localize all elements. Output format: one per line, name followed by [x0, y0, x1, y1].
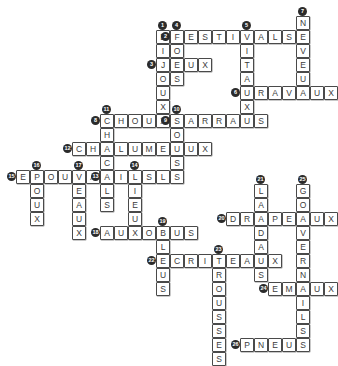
crossword-cell[interactable]: E [282, 212, 296, 226]
crossword-cell[interactable]: A [226, 114, 240, 128]
clue-number-badge[interactable]: 4 [172, 21, 181, 30]
crossword-cell[interactable]: U [170, 226, 184, 240]
crossword-cell[interactable]: D [254, 226, 268, 240]
crossword-cell[interactable]: T [212, 254, 226, 268]
crossword-cell[interactable]: A [240, 72, 254, 86]
crossword-cell[interactable]: U [156, 268, 170, 282]
crossword-cell[interactable]: O [142, 226, 156, 240]
crossword-cell[interactable]: A [184, 114, 198, 128]
crossword-cell[interactable]: H [86, 142, 100, 156]
crossword-cell[interactable]: O [44, 170, 58, 184]
crossword-cell[interactable]: U [184, 58, 198, 72]
crossword-cell[interactable]: U [142, 114, 156, 128]
clue-number-badge[interactable]: 8 [91, 116, 100, 125]
crossword-cell[interactable]: E [128, 198, 142, 212]
crossword-cell[interactable]: S [212, 310, 226, 324]
crossword-cell[interactable]: U [240, 86, 254, 100]
crossword-cell[interactable]: S [184, 226, 198, 240]
crossword-cell[interactable]: T [240, 58, 254, 72]
clue-number-badge[interactable]: 23 [214, 245, 223, 254]
crossword-cell[interactable]: R [240, 212, 254, 226]
crossword-cell[interactable]: V [296, 226, 310, 240]
crossword-cell[interactable]: X [198, 142, 212, 156]
crossword-cell[interactable]: V [296, 44, 310, 58]
crossword-cell[interactable]: A [296, 86, 310, 100]
clue-number-badge[interactable]: 18 [91, 228, 100, 237]
clue-number-badge[interactable]: 6 [231, 88, 240, 97]
clue-number-badge[interactable]: 17 [74, 161, 83, 170]
crossword-cell[interactable]: L [128, 170, 142, 184]
crossword-cell[interactable]: U [310, 282, 324, 296]
crossword-cell[interactable]: E [16, 170, 30, 184]
crossword-cell[interactable]: S [296, 338, 310, 352]
crossword-cell[interactable]: I [296, 296, 310, 310]
crossword-cell[interactable]: H [100, 128, 114, 142]
crossword-cell[interactable]: A [100, 170, 114, 184]
crossword-cell[interactable]: A [254, 30, 268, 44]
crossword-cell[interactable]: U [128, 142, 142, 156]
crossword-cell[interactable]: L [268, 30, 282, 44]
crossword-cell[interactable]: E [184, 30, 198, 44]
crossword-cell[interactable]: V [240, 30, 254, 44]
crossword-cell[interactable]: X [198, 58, 212, 72]
crossword-cell[interactable]: S [254, 268, 268, 282]
crossword-cell[interactable]: O [170, 128, 184, 142]
clue-number-badge[interactable]: 20 [217, 214, 226, 223]
crossword-cell[interactable]: B [156, 226, 170, 240]
clue-number-badge[interactable]: 21 [256, 175, 265, 184]
crossword-cell[interactable]: U [156, 86, 170, 100]
crossword-cell[interactable]: H [114, 114, 128, 128]
clue-number-badge[interactable]: 19 [158, 217, 167, 226]
crossword-cell[interactable]: S [170, 72, 184, 86]
crossword-cell[interactable]: P [30, 170, 44, 184]
crossword-cell[interactable]: S [142, 170, 156, 184]
clue-number-badge[interactable]: 25 [298, 175, 307, 184]
crossword-cell[interactable]: S [254, 114, 268, 128]
crossword-cell[interactable]: U [72, 212, 86, 226]
crossword-cell[interactable]: U [58, 170, 72, 184]
crossword-cell[interactable]: E [296, 240, 310, 254]
crossword-cell[interactable]: U [212, 296, 226, 310]
crossword-cell[interactable]: X [30, 212, 44, 226]
crossword-cell[interactable]: O [212, 282, 226, 296]
crossword-cell[interactable]: P [240, 338, 254, 352]
crossword-cell[interactable]: C [100, 156, 114, 170]
clue-number-badge[interactable]: 15 [7, 172, 16, 181]
crossword-cell[interactable]: F [170, 30, 184, 44]
crossword-cell[interactable]: L [114, 142, 128, 156]
clue-number-badge[interactable]: 24 [259, 284, 268, 293]
clue-number-badge[interactable]: 26 [231, 340, 240, 349]
crossword-cell[interactable]: R [254, 86, 268, 100]
crossword-cell[interactable]: M [282, 282, 296, 296]
crossword-cell[interactable]: E [268, 282, 282, 296]
crossword-cell[interactable]: E [72, 184, 86, 198]
crossword-cell[interactable]: U [310, 212, 324, 226]
crossword-cell[interactable]: U [114, 226, 128, 240]
crossword-cell[interactable]: L [296, 310, 310, 324]
crossword-cell[interactable]: E [212, 338, 226, 352]
crossword-cell[interactable]: V [72, 170, 86, 184]
crossword-cell[interactable]: N [254, 338, 268, 352]
crossword-cell[interactable]: U [310, 86, 324, 100]
crossword-cell[interactable]: I [114, 170, 128, 184]
clue-number-badge[interactable]: 11 [102, 105, 111, 114]
crossword-cell[interactable]: N [296, 16, 310, 30]
clue-number-badge[interactable]: 16 [32, 161, 41, 170]
crossword-cell[interactable]: L [156, 170, 170, 184]
crossword-cell[interactable]: X [72, 226, 86, 240]
crossword-cell[interactable]: S [212, 324, 226, 338]
crossword-cell[interactable]: V [282, 86, 296, 100]
clue-number-badge[interactable]: 3 [147, 60, 156, 69]
crossword-cell[interactable]: L [254, 184, 268, 198]
crossword-cell[interactable]: A [100, 226, 114, 240]
crossword-cell[interactable]: S [212, 352, 226, 366]
crossword-cell[interactable]: E [296, 58, 310, 72]
clue-number-badge[interactable]: 13 [91, 172, 100, 181]
crossword-cell[interactable]: O [296, 198, 310, 212]
crossword-cell[interactable]: S [170, 114, 184, 128]
crossword-cell[interactable]: O [156, 72, 170, 86]
crossword-cell[interactable]: S [170, 156, 184, 170]
crossword-cell[interactable]: A [100, 142, 114, 156]
crossword-cell[interactable]: R [212, 268, 226, 282]
crossword-cell[interactable]: X [156, 100, 170, 114]
